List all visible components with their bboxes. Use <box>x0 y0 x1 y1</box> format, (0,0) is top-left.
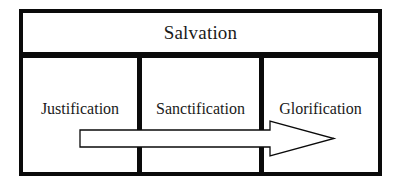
stage-justification: Justification <box>23 98 137 120</box>
diagram-title: Salvation <box>23 13 378 52</box>
stage-sanctification: Sanctification <box>142 98 259 120</box>
header-divider <box>19 52 382 58</box>
stage-glorification: Glorification <box>263 98 378 120</box>
